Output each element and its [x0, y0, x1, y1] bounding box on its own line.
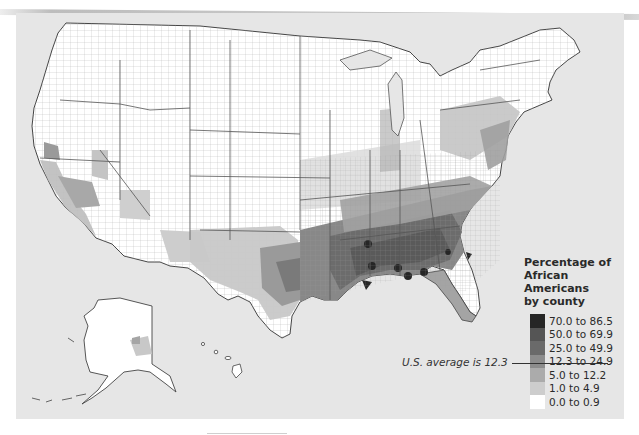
legend-label: 70.0 to 86.5: [549, 315, 613, 327]
bottom-rule: [207, 433, 287, 434]
legend-swatch: [530, 341, 545, 355]
us-average-label: U.S. average is 12.3: [402, 356, 512, 368]
legend-item: 12.3 to 24.9: [522, 355, 622, 369]
legend-label: 1.0 to 4.9: [549, 382, 600, 394]
legend-item: 5.0 to 12.2: [522, 368, 622, 382]
hawaii: [201, 342, 242, 378]
legend-swatch: [530, 382, 545, 396]
legend-item: 70.0 to 86.5: [522, 314, 622, 328]
legend-label: 25.0 to 49.9: [549, 342, 613, 354]
legend-item: 25.0 to 49.9: [522, 341, 622, 355]
legend-item: 1.0 to 4.9: [522, 382, 622, 396]
legend-label: 50.0 to 69.9: [549, 328, 613, 340]
legend-title-line-3: by county: [524, 295, 622, 308]
map-panel: Percentage of African Americans by count…: [16, 13, 624, 419]
legend-swatch: [530, 314, 545, 328]
legend-swatch: [530, 355, 545, 369]
legend-label: 0.0 to 0.9: [549, 396, 600, 408]
legend-item: 50.0 to 69.9: [522, 328, 622, 342]
legend-swatch: [530, 328, 545, 342]
map-legend: Percentage of African Americans by count…: [522, 256, 622, 409]
legend-label: 5.0 to 12.2: [549, 369, 606, 381]
legend-title-line-2: African Americans: [524, 269, 622, 295]
legend-title: Percentage of African Americans by count…: [524, 256, 622, 308]
legend-label: 12.3 to 24.9: [549, 355, 613, 367]
legend-title-line-1: Percentage of: [524, 256, 622, 269]
legend-swatch: [530, 368, 545, 382]
alaska: [82, 298, 176, 404]
legend-item: 0.0 to 0.9: [522, 395, 622, 409]
legend-swatch: [530, 395, 545, 409]
